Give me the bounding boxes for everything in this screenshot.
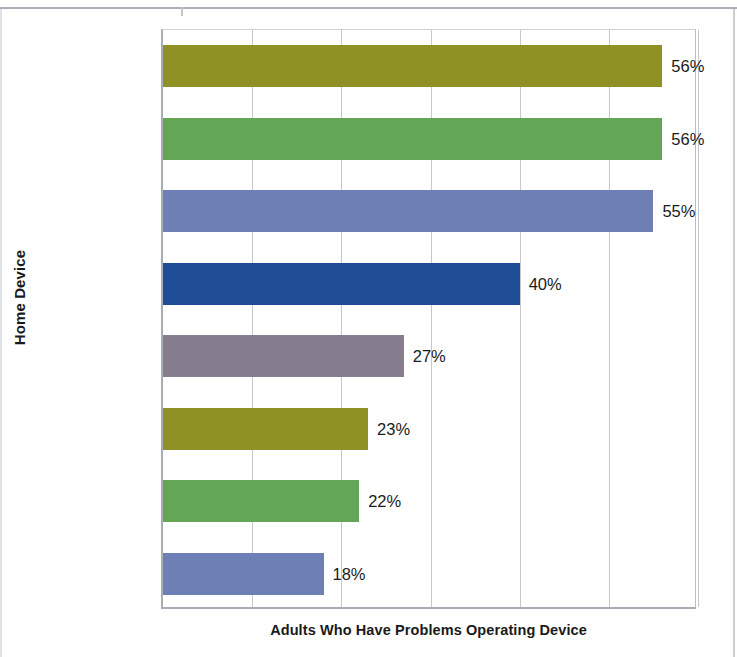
- bar[interactable]: [163, 408, 368, 450]
- bar-row[interactable]: Microwave22%: [163, 465, 698, 538]
- bar[interactable]: [163, 118, 662, 160]
- bar-row[interactable]: VCR40%: [163, 248, 698, 321]
- bar[interactable]: [163, 190, 653, 232]
- bar-row[interactable]: Computer56%: [163, 103, 698, 176]
- bar[interactable]: [163, 553, 324, 595]
- bar-value-label: 18%: [333, 564, 366, 583]
- bar-row[interactable]: Cell phone56%: [163, 30, 698, 103]
- bar[interactable]: [163, 480, 359, 522]
- bar-value-label: 22%: [368, 492, 401, 511]
- plot-area: Cell phone56%Computer56%Security system5…: [161, 29, 696, 609]
- x-axis-title: Adults Who Have Problems Operating Devic…: [161, 622, 696, 638]
- bar-row[interactable]: Answering machine27%: [163, 320, 698, 393]
- gridline: [698, 30, 699, 607]
- bar-value-label: 23%: [377, 419, 410, 438]
- bar-row[interactable]: Stereo23%: [163, 393, 698, 466]
- bar-value-label: 27%: [413, 347, 446, 366]
- bar-value-label: 56%: [671, 129, 704, 148]
- y-axis-title: Home Device: [11, 218, 28, 378]
- bar[interactable]: [163, 45, 662, 87]
- bar-row[interactable]: TV18%: [163, 538, 698, 611]
- bar-value-label: 55%: [662, 202, 695, 221]
- bar-value-label: 40%: [529, 274, 562, 293]
- bar[interactable]: [163, 263, 520, 305]
- bar-row[interactable]: Security system55%: [163, 175, 698, 248]
- bar-chart: Home Device Cell phone56%Computer56%Secu…: [0, 0, 737, 657]
- bar[interactable]: [163, 335, 404, 377]
- bar-value-label: 56%: [671, 57, 704, 76]
